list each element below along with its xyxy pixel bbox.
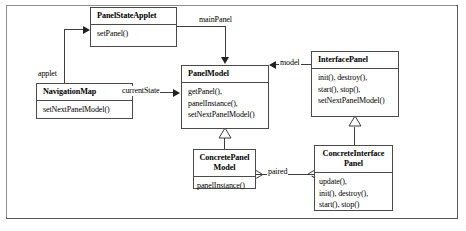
class-box-interface-panel[interactable]: InterfacePanel init(), destroy(), start(… <box>311 51 399 117</box>
operation-item: setNextPanelModel() <box>43 104 128 116</box>
operation-item: init(), destroy(), <box>318 72 394 84</box>
generalization-triangle-panelmodel <box>218 128 232 139</box>
class-operations-concrete-panel-model: panelInstance() <box>194 177 255 195</box>
class-name-navigation-map: NavigationMap <box>37 84 132 101</box>
operation-item: setNextPanelModel() <box>188 109 264 121</box>
operation-item: setNextPanelModel() <box>318 95 394 107</box>
class-name-concrete-interface-panel: ConcreteInterface Panel <box>315 146 392 173</box>
class-operations-panel-state-applet: setPanel() <box>91 25 176 43</box>
arrowhead-applet <box>83 26 90 34</box>
diagram-canvas: mainPanel applet currentState model pair… <box>0 0 466 231</box>
class-operations-navigation-map: setNextPanelModel() <box>37 101 132 119</box>
class-box-concrete-panel-model[interactable]: ConcretePanel Model panelInstance() <box>193 149 256 189</box>
class-name-concrete-panel-model: ConcretePanel Model <box>194 150 255 177</box>
edge-label-model: model <box>279 58 301 68</box>
class-operations-interface-panel: init(), destroy(), start(), stop(), setN… <box>312 69 398 110</box>
class-box-panel-model[interactable]: PanelModel getPanel(), panelInstance(), … <box>181 65 269 129</box>
edge-label-mainpanel: mainPanel <box>198 15 233 25</box>
generalization-triangle-interfacepanel <box>348 116 362 127</box>
edge-label-paired: paired <box>267 167 288 177</box>
class-box-navigation-map[interactable]: NavigationMap setNextPanelModel() <box>36 83 133 119</box>
operation-item: start(), stop(), <box>318 84 394 96</box>
connector-mainpanel-vertical <box>225 26 226 58</box>
class-operations-panel-model: getPanel(), panelInstance(), setNextPane… <box>182 83 268 124</box>
arrowhead-currentstate <box>173 89 180 97</box>
operation-item: setPanel() <box>97 28 172 40</box>
connector-mainpanel-horizontal <box>177 26 225 27</box>
class-name-interface-panel: InterfacePanel <box>312 52 398 69</box>
class-box-panel-state-applet[interactable]: PanelStateApplet setPanel() <box>90 7 177 47</box>
diagram-frame: mainPanel applet currentState model pair… <box>6 5 458 219</box>
connector-generalization-interfacepanel <box>354 127 355 145</box>
edge-label-applet: applet <box>37 69 58 79</box>
arrowhead-model <box>269 61 276 69</box>
operation-item: init(), destroy(), <box>319 188 388 200</box>
operation-item: update(), <box>319 176 388 188</box>
operation-item: getPanel(), <box>188 86 264 98</box>
operation-item: panelInstance() <box>197 180 251 192</box>
connector-generalization-panelmodel <box>224 138 225 149</box>
class-box-concrete-interface-panel[interactable]: ConcreteInterface Panel update(), init()… <box>314 145 393 211</box>
class-operations-concrete-interface-panel: update(), init(), destroy(), start(), st… <box>315 173 392 214</box>
class-name-panel-state-applet: PanelStateApplet <box>91 8 176 25</box>
class-name-panel-model: PanelModel <box>182 66 268 83</box>
connector-applet-vertical <box>64 29 65 83</box>
arrowhead-mainpanel <box>221 57 229 64</box>
operation-item: start(), stop() <box>319 199 388 211</box>
arrowhead-paired-left <box>256 170 264 179</box>
edge-label-currentstate: currentState <box>121 86 160 96</box>
operation-item: panelInstance(), <box>188 98 264 110</box>
